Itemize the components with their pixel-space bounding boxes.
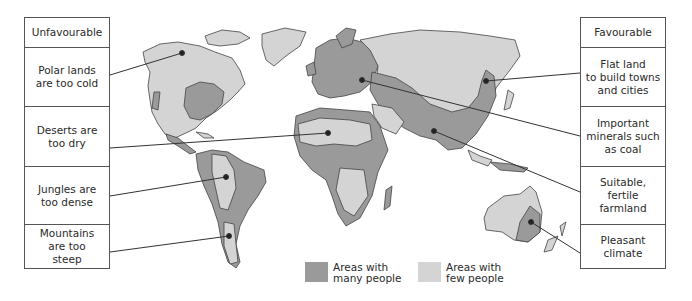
unfavourable-panel: Unfavourable Polar lands are too cold De… xyxy=(24,17,110,269)
legend-label: Areas with many people xyxy=(333,262,401,284)
favourable-title: Favourable xyxy=(581,18,665,47)
factor-mountains: Mountains are too steep xyxy=(25,224,109,268)
few-people-swatch xyxy=(418,262,441,282)
greenland xyxy=(262,28,306,66)
factor-label: Deserts are too dry xyxy=(37,124,98,150)
legend-many-people: Areas with many people xyxy=(305,262,401,284)
factor-farmland: Suitable, fertile farmland xyxy=(581,166,665,224)
factor-climate: Pleasant climate xyxy=(581,224,665,268)
legend-label: Areas with few people xyxy=(446,262,504,284)
factor-minerals: Important minerals such as coal xyxy=(581,106,665,166)
panel-title: Favourable xyxy=(594,26,652,39)
factor-label: Flat land to build towns and cities xyxy=(586,58,660,97)
many-people-swatch xyxy=(305,262,328,282)
factor-label: Mountains are too steep xyxy=(40,227,94,266)
unfavourable-title: Unfavourable xyxy=(25,18,109,47)
factor-polar: Polar lands are too cold xyxy=(25,47,109,106)
factor-label: Polar lands are too cold xyxy=(36,64,98,90)
north-america-dense xyxy=(184,82,224,120)
factor-jungles: Jungles are too dense xyxy=(25,166,109,224)
panel-title: Unfavourable xyxy=(32,26,103,39)
factor-deserts: Deserts are too dry xyxy=(25,106,109,166)
favourable-panel: Favourable Flat land to build towns and … xyxy=(580,17,666,269)
factor-label: Pleasant climate xyxy=(601,234,646,260)
legend-few-people: Areas with few people xyxy=(418,262,504,284)
sahara xyxy=(298,118,372,146)
factor-flat-land: Flat land to build towns and cities xyxy=(581,47,665,106)
factor-label: Suitable, fertile farmland xyxy=(599,176,646,215)
factor-label: Important minerals such as coal xyxy=(586,117,659,156)
factor-label: Jungles are too dense xyxy=(38,183,96,209)
